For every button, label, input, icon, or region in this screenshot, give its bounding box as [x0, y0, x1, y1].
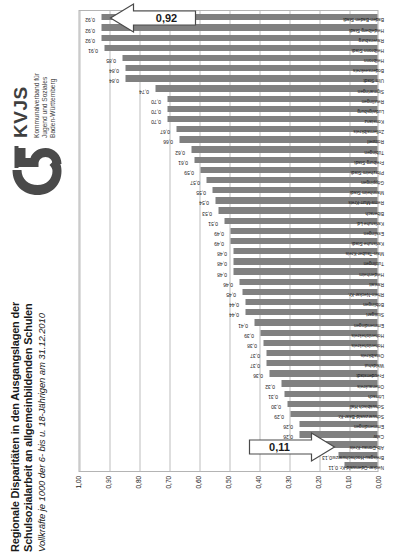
bar-value-label: 0,85	[106, 58, 116, 63]
x-axis-category-label: Heidenheim	[358, 272, 383, 277]
bar-item[interactable]: 0,85Heilbronn	[79, 53, 377, 63]
bar-item[interactable]: 0,38Hohenlohekreis	[79, 338, 377, 348]
kvjs-subtitle-line-2: Jugend und Soziales	[40, 73, 48, 138]
bar-item[interactable]: 0,46Rastatt	[79, 277, 377, 287]
kvjs-subtitle: Kommunalverband für Jugend und Soziales …	[32, 73, 57, 138]
bar-item[interactable]: 0,37Waldshut	[79, 358, 377, 368]
bar-item[interactable]: 0,62Tübingen	[79, 145, 377, 155]
x-axis-category-label: Main-Tauber-Kreis	[345, 251, 383, 256]
x-axis-category-label: Ravensburg	[358, 38, 383, 43]
bar-item[interactable]: 0,61Freiburg Stadt	[79, 155, 377, 165]
bar-item[interactable]: 0,54Rems-Murr-Kreis	[79, 195, 377, 205]
bar-value-label: 0,38	[247, 343, 257, 348]
bar-value-label: 0,54	[199, 200, 209, 205]
bar-value-label: 0,37	[250, 363, 260, 368]
bar-item[interactable]: 0,84Bodenseekreis	[79, 63, 377, 73]
bar-item[interactable]: 0,92Ravensburg	[79, 33, 377, 43]
bar-item[interactable]: 0,45Rhein-Neckar-Kr.	[79, 287, 377, 297]
bar-item[interactable]: 0,70Reutlingen	[79, 94, 377, 104]
bar-item[interactable]: 0,57Göppingen	[79, 175, 377, 185]
x-axis-category-label: Calw	[373, 434, 383, 439]
bar[interactable]	[125, 75, 377, 81]
bar[interactable]	[218, 207, 377, 213]
bar[interactable]	[230, 228, 377, 234]
bar-item[interactable]: 0,41Emmendingen	[79, 317, 377, 327]
bar[interactable]	[167, 116, 377, 122]
bar-item[interactable]: 0,84Ulm Stadt	[79, 73, 377, 83]
bar-item[interactable]: 0,74Sigmaringen	[79, 83, 377, 93]
bar[interactable]	[101, 35, 377, 41]
bar-value-label: 0,11	[328, 465, 338, 470]
bar-value-label: 0,36	[253, 373, 263, 378]
bar-item[interactable]: 0,26Emmendingen	[79, 419, 377, 429]
bar-item[interactable]: 0,67Zollernalbkreis	[79, 124, 377, 134]
bar-value-label: 0,49	[214, 231, 224, 236]
bar-item[interactable]: 0,66Rottweil	[79, 134, 377, 144]
bar[interactable]	[239, 279, 377, 285]
bar-item[interactable]: 0,31Lörrach	[79, 389, 377, 399]
bar-item[interactable]: 0,44Stuttgart	[79, 307, 377, 317]
bar[interactable]	[191, 146, 377, 152]
bar[interactable]	[167, 96, 377, 102]
bar-item[interactable]: 0,59Pforzheim Stadt	[79, 165, 377, 175]
bar-value-label: 0,30	[271, 404, 281, 409]
bar[interactable]	[179, 136, 377, 142]
bar[interactable]	[176, 126, 377, 132]
bar[interactable]	[206, 177, 377, 183]
bar[interactable]	[224, 218, 377, 224]
x-axis-category-label: Biberach	[365, 211, 384, 216]
x-axis-category-label: Stuttgart	[366, 312, 384, 317]
x-axis-category-label: Hohenlohekreis	[351, 343, 384, 348]
bar-item[interactable]: 0,48Tuttlingen	[79, 256, 377, 266]
bar-item[interactable]: 0,51Karlsruhe Ld.	[79, 216, 377, 226]
y-axis-tick-label: 0,70	[165, 476, 172, 488]
bar-value-label: 0,44	[229, 302, 239, 307]
bar-item[interactable]: 0,70Konstanz	[79, 114, 377, 124]
bar-value-label: 0,48	[217, 251, 227, 256]
bar[interactable]	[233, 258, 377, 264]
bar-item[interactable]: 0,91Heilbronn Stadt	[79, 43, 377, 53]
bar[interactable]	[284, 391, 377, 397]
bar[interactable]	[122, 55, 377, 61]
bar[interactable]	[233, 269, 377, 275]
bar-item[interactable]: 0,53Biberach	[79, 206, 377, 216]
bar-item[interactable]: 0,32Ortenaukreis	[79, 378, 377, 388]
x-axis-category-label: Göppingen	[361, 180, 384, 185]
x-axis-category-label: Lörrach	[368, 394, 384, 399]
bar[interactable]	[245, 299, 377, 305]
bar-item[interactable]: 0,55Mannheim Stadt	[79, 185, 377, 195]
bar[interactable]	[104, 45, 377, 51]
bar[interactable]	[167, 106, 377, 112]
x-axis-category-label: Rottweil	[367, 139, 384, 144]
plot-area: 0,11Neckar-Odenwald-Kr.0,13Breisgau-Hoch…	[78, 10, 378, 472]
bar[interactable]	[245, 309, 377, 315]
bar-item[interactable]: 0,44Böblingen	[79, 297, 377, 307]
bar-value-label: 0,92	[85, 28, 95, 33]
bar-item[interactable]: 0,29Schwarzwald-Baar-Kr.	[79, 409, 377, 419]
bar[interactable]	[194, 157, 377, 163]
x-axis-category-label: Bodenseekreis	[352, 68, 383, 73]
x-axis-category-label: Emmendingen	[353, 424, 383, 429]
bar-item[interactable]: 0,36Freudenstadt	[79, 368, 377, 378]
bar-chart: 0,11Neckar-Odenwald-Kr.0,13Breisgau-Hoch…	[78, 10, 378, 472]
bar-item[interactable]: 0,30Schwäbisch Hall	[79, 399, 377, 409]
bar[interactable]	[155, 85, 377, 91]
bar-item[interactable]: 0,37Ostalbkreis	[79, 348, 377, 358]
bar-value-label: 0,61	[178, 160, 188, 165]
y-axis-tick-label: 0,10	[345, 476, 352, 488]
bar[interactable]	[125, 65, 377, 71]
bar-value-label: 0,51	[208, 221, 218, 226]
bar[interactable]	[266, 360, 377, 366]
bar-value-label: 0,29	[274, 414, 284, 419]
x-axis-category-label: Tuttlingen	[363, 261, 383, 266]
bar-value-label: 0,92	[85, 38, 95, 43]
bar-item[interactable]: 0,49Esslingen	[79, 226, 377, 236]
max-value-callout: 0,92	[110, 3, 196, 33]
x-axis-category-label: Ortenaukreis	[357, 384, 384, 389]
bar-item[interactable]: 0,48Heidenheim	[79, 267, 377, 277]
bar-item[interactable]: 0,39Hohenlohekreis	[79, 328, 377, 338]
x-axis-category-label: Schwäbisch Hall	[349, 404, 383, 409]
bar-item[interactable]: 0,48Main-Tauber-Kreis	[79, 246, 377, 256]
bar-item[interactable]: 0,49Karlsruhe Stadt	[79, 236, 377, 246]
bar-item[interactable]: 0,70Ludwigsburg	[79, 104, 377, 114]
